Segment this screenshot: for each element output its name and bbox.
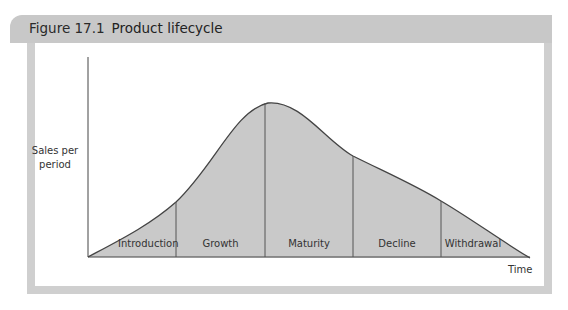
- stage-label-introduction: Introduction: [118, 238, 176, 249]
- stage-label-decline: Decline: [353, 238, 441, 249]
- y-axis-label-line2: period: [30, 158, 80, 172]
- lifecycle-diagram: [0, 0, 568, 310]
- stage-label-growth: Growth: [176, 238, 265, 249]
- y-axis-label: Sales per period: [30, 144, 80, 172]
- lifecycle-curve-area: [88, 103, 530, 258]
- y-axis-label-line1: Sales per: [30, 144, 80, 158]
- stage-label-maturity: Maturity: [265, 238, 353, 249]
- stage-label-withdrawal: Withdrawal: [441, 238, 505, 249]
- x-axis-label: Time: [508, 264, 532, 275]
